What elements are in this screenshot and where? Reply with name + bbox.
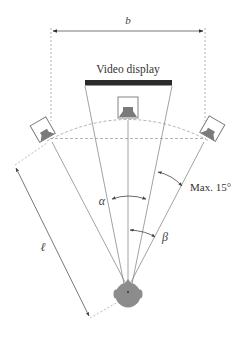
beta-label: β — [161, 230, 168, 244]
right-speaker — [200, 116, 225, 141]
max-angle-label: Max. 15° — [190, 181, 231, 193]
l-extension-bottom — [90, 302, 118, 318]
listening-arc — [15, 143, 47, 165]
alpha-arc — [112, 196, 146, 199]
l-label: ℓ — [41, 240, 46, 254]
right-speaker-line — [130, 142, 204, 284]
max-angle-arc — [158, 172, 182, 186]
distance-dimension-l: ℓ — [16, 168, 118, 318]
listener-head — [116, 283, 141, 308]
l-arrow — [16, 168, 89, 316]
angle-beta: β — [130, 230, 168, 244]
center-speaker — [118, 97, 138, 118]
angle-max-15: Max. 15° — [158, 172, 231, 193]
alpha-label: α — [99, 194, 106, 208]
video-display: Video display — [85, 63, 172, 86]
display-bar — [85, 80, 172, 86]
video-display-label: Video display — [96, 63, 160, 76]
angle-alpha: α — [99, 194, 146, 208]
listener-center-dot — [127, 291, 129, 293]
speaker-placement-diagram: b Video display ℓ — [0, 0, 245, 340]
listener-nose — [125, 279, 131, 283]
b-label: b — [125, 14, 131, 26]
listener — [114, 279, 143, 308]
